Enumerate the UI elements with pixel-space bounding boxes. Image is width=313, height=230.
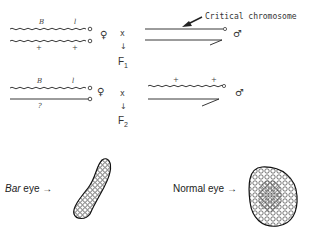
- female-p-chromosome-top: [10, 27, 92, 31]
- female-symbol: ♀: [97, 87, 104, 97]
- generation-label-f2: F2: [118, 116, 128, 128]
- gene-label-wildtype: +: [211, 77, 217, 84]
- bar-eye-illustration: [74, 159, 111, 219]
- male-f1-x-chromosome: [148, 84, 226, 87]
- normal-eye-label: Normal eye →: [173, 184, 237, 194]
- generation-index: 1: [124, 62, 128, 69]
- generation-label-f1: F1: [118, 57, 128, 69]
- female-p-chromosome-bottom: [10, 39, 92, 43]
- down-arrow-icon: ↓: [120, 103, 127, 111]
- generation-index: 2: [124, 121, 128, 128]
- male-symbol: ♂: [235, 88, 244, 98]
- female-symbol: ♀: [100, 30, 107, 40]
- critical-arrow-icon: [182, 17, 202, 27]
- bar-eye-label-rest: eye →: [21, 183, 53, 194]
- gene-label-wildtype: +: [72, 45, 78, 52]
- chromosome-diagram-art: [0, 0, 313, 230]
- gene-label-bar: B: [37, 78, 42, 85]
- bar-eye-label: Bar eye →: [5, 184, 52, 194]
- normal-eye-illustration: [249, 167, 297, 226]
- female-f1-chromosome-bottom: [10, 97, 92, 101]
- gene-label-lethal: l: [74, 19, 76, 26]
- male-p-y-chromosome: [145, 40, 222, 45]
- male-symbol: ♂: [233, 29, 242, 39]
- gene-label-wildtype: +: [36, 45, 42, 52]
- gene-label-bar: B: [39, 19, 44, 26]
- male-p-x-chromosome: [145, 27, 227, 30]
- bar-eye-label-italic: Bar: [5, 183, 21, 194]
- gene-label-lethal: l: [72, 78, 74, 85]
- down-arrow-icon: ↓: [120, 43, 127, 51]
- cross-symbol: x: [120, 30, 125, 38]
- male-f1-y-chromosome: [148, 99, 219, 106]
- cross-symbol: x: [120, 90, 125, 98]
- critical-chromosome-label: Critical chromosome: [205, 13, 297, 21]
- female-f1-chromosome-top: [10, 86, 92, 90]
- gene-label-unknown: ?: [38, 103, 42, 110]
- gene-label-wildtype: +: [173, 77, 179, 84]
